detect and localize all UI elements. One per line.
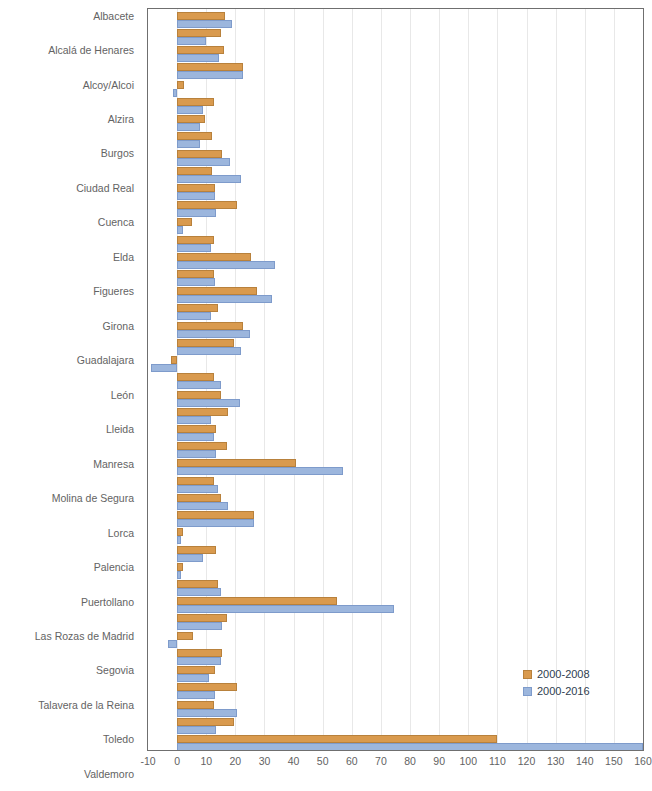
x-tick-140: 140 [576, 755, 594, 767]
bar-2000-2008 [177, 614, 227, 622]
bar-2000-2008 [177, 511, 254, 519]
bar-2000-2008 [177, 270, 213, 278]
x-tick-50: 50 [317, 755, 329, 767]
bar-2000-2008 [177, 167, 212, 175]
legend-label-0: 2000-2008 [537, 666, 590, 683]
bar-2000-2008 [177, 459, 296, 467]
bar-2000-2008 [177, 580, 218, 588]
bar-group [148, 405, 643, 422]
bar-group [148, 422, 643, 439]
legend-item-1[interactable]: 2000-2016 [523, 683, 590, 700]
bar-group [148, 698, 643, 715]
bar-group [148, 353, 643, 370]
bar-group [148, 302, 643, 319]
bar-group [148, 732, 643, 749]
x-tick-20: 20 [230, 755, 242, 767]
category-label: Toledo [103, 734, 134, 745]
bar-group [148, 526, 643, 543]
bar-2000-2008 [177, 150, 222, 158]
bar-2000-2008 [177, 12, 225, 20]
category-label: Palencia [94, 562, 134, 573]
bar-2000-2008 [177, 701, 213, 709]
bar-group [148, 646, 643, 663]
bar-2000-2008 [177, 528, 183, 536]
legend-item-0[interactable]: 2000-2008 [523, 666, 590, 683]
x-tick-40: 40 [288, 755, 300, 767]
bar-group [148, 457, 643, 474]
bar-group [148, 508, 643, 525]
category-label: Talavera de la Reina [38, 700, 134, 711]
x-tick-30: 30 [259, 755, 271, 767]
legend-swatch-2000-2016 [523, 687, 532, 696]
x-tick-110: 110 [489, 755, 506, 767]
category-label: Girona [102, 321, 134, 332]
bar-2000-2008 [177, 683, 237, 691]
bar-group [148, 95, 643, 112]
x-tick-70: 70 [375, 755, 387, 767]
bar-2000-2008 [177, 236, 213, 244]
bar-group [148, 147, 643, 164]
bar-2000-2008 [177, 63, 243, 71]
x-tick-160: 160 [634, 755, 652, 767]
bar-group [148, 336, 643, 353]
bar-2000-2008 [177, 408, 228, 416]
bar-group [148, 9, 643, 26]
category-label: Burgos [101, 148, 134, 159]
bar-group [148, 439, 643, 456]
bar-group [148, 198, 643, 215]
bar-2000-2008 [177, 29, 221, 37]
bar-2000-2008 [177, 201, 237, 209]
bar-group [148, 715, 643, 732]
bar-group [148, 78, 643, 95]
bar-2000-2008 [177, 373, 213, 381]
bar-group [148, 216, 643, 233]
category-label: Guadalajara [77, 355, 134, 366]
bar-2000-2008 [177, 322, 243, 330]
bar-2000-2008 [177, 98, 213, 106]
bar-group [148, 233, 643, 250]
bar-group [148, 491, 643, 508]
bar-group [148, 577, 643, 594]
bar-group [148, 543, 643, 560]
x-tick-120: 120 [518, 755, 536, 767]
bar-group [148, 181, 643, 198]
bar-2000-2008 [177, 391, 221, 399]
bar-group [148, 371, 643, 388]
bar-group [148, 388, 643, 405]
bar-2000-2008 [177, 649, 222, 657]
category-label: Molina de Segura [52, 493, 134, 504]
bar-group [148, 61, 643, 78]
x-tick-60: 60 [346, 755, 358, 767]
bar-2000-2008 [177, 81, 184, 89]
bar-group [148, 629, 643, 646]
bar-group [148, 474, 643, 491]
bar-group [148, 43, 643, 60]
category-axis-labels: AlbaceteAlcalá de HenaresAlcoy/AlcoiAlzi… [0, 8, 140, 751]
bar-2000-2008 [171, 356, 177, 364]
bar-2000-2008 [177, 632, 193, 640]
bar-group [148, 112, 643, 129]
category-label: Puertollano [81, 597, 134, 608]
bar-group [148, 267, 643, 284]
bar-2000-2008 [177, 425, 216, 433]
gridline-160 [643, 9, 644, 750]
x-tick-150: 150 [605, 755, 623, 767]
bar-group [148, 560, 643, 577]
bar-group [148, 285, 643, 302]
category-label: Alcoy/Alcoi [83, 80, 134, 91]
category-label: Figueres [93, 286, 134, 297]
bar-2000-2008 [177, 184, 215, 192]
category-label: Segovia [96, 665, 134, 676]
category-label: Elda [113, 252, 134, 263]
bar-2000-2008 [177, 477, 213, 485]
bar-2000-2008 [177, 718, 234, 726]
x-tick-80: 80 [404, 755, 416, 767]
category-label: Lorca [108, 528, 134, 539]
plot-area [147, 8, 644, 751]
bar-2000-2008 [177, 735, 497, 743]
bar-2000-2008 [177, 442, 227, 450]
category-label: Alzira [108, 114, 134, 125]
bar-2000-2016 [177, 743, 643, 751]
x-tick-100: 100 [460, 755, 478, 767]
bar-2000-2008 [177, 597, 337, 605]
